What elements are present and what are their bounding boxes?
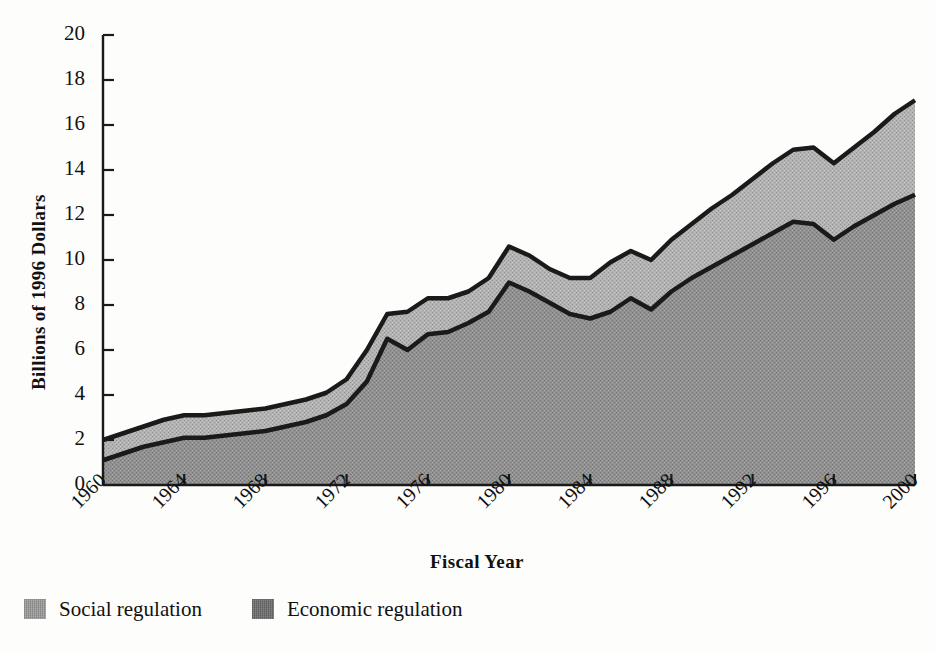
x-axis-title: Fiscal Year	[430, 551, 524, 573]
y-axis-tick-label: 10	[51, 246, 85, 271]
y-axis-tick-label: 4	[51, 381, 85, 406]
y-axis-tick-label: 16	[51, 111, 85, 136]
y-axis-tick-label: 14	[51, 156, 85, 181]
economic-regulation-area	[103, 195, 915, 485]
y-axis-tick-label: 6	[51, 336, 85, 361]
y-axis-tick-label: 18	[51, 66, 85, 91]
legend-label-economic: Economic regulation	[287, 597, 463, 622]
legend-item-economic: Economic regulation	[252, 597, 463, 622]
legend-label-social: Social regulation	[59, 597, 202, 622]
chart-legend: Social regulation Economic regulation	[0, 586, 936, 632]
legend-swatch-economic	[252, 599, 274, 619]
y-axis-tick-label: 12	[51, 201, 85, 226]
y-axis-tick-label: 20	[51, 21, 85, 46]
y-axis-tick-marks	[103, 35, 114, 440]
y-axis-tick-label: 8	[51, 291, 85, 316]
y-axis-tick-label: 2	[51, 426, 85, 451]
chart-figure: Billions of 1996 Dollars 024681012141618…	[0, 0, 936, 653]
y-axis-title: Billions of 1996 Dollars	[28, 194, 50, 390]
legend-item-social: Social regulation	[24, 597, 202, 622]
legend-swatch-social	[24, 599, 46, 619]
